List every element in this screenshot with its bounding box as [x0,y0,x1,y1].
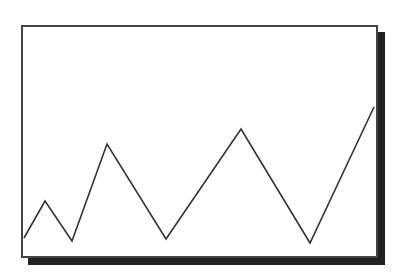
line-plot [0,0,407,279]
chart-canvas [0,0,407,279]
data-line [24,107,374,243]
